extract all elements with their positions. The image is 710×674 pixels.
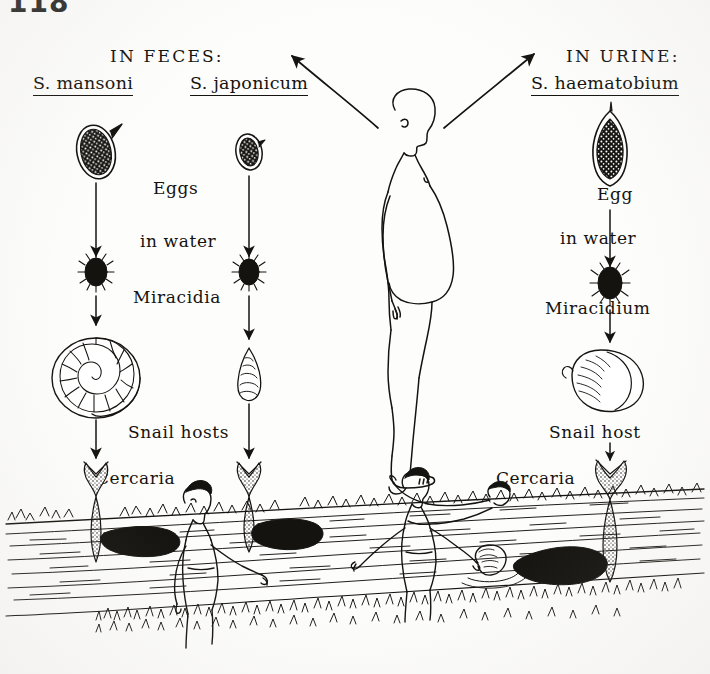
wading-child [351, 467, 480, 622]
arrow-to-feces [292, 56, 378, 128]
snail-bulinus [562, 350, 643, 411]
miracidium-japonicum [232, 252, 266, 291]
egg-mansoni [72, 122, 122, 183]
cercaria-left [84, 462, 108, 562]
snail-oncomelania [238, 348, 261, 401]
human-figure-center [382, 89, 454, 494]
egg-japonicum [233, 132, 265, 172]
rock-right [513, 547, 607, 585]
miracidium-mansoni [78, 251, 114, 292]
swimming-child-surface [390, 476, 511, 525]
miracidium-haematobium [590, 260, 630, 306]
snail-biomphalaria [52, 338, 140, 418]
rock-center [252, 519, 323, 550]
rock-left [101, 526, 180, 556]
figure-artwork [0, 0, 710, 674]
arrow-to-urine [444, 54, 534, 128]
egg-haematobium [593, 102, 627, 186]
water-scene [6, 467, 704, 648]
book-page: 118 ANIMALS AND THEIR DISEASES IN FECES:… [0, 0, 710, 674]
